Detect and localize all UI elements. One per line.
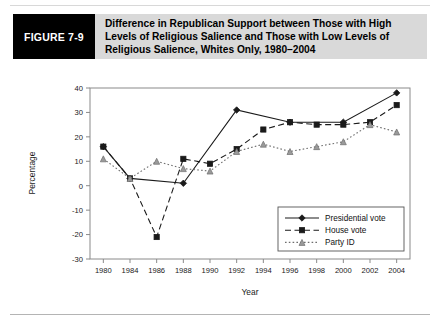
y-tick-label: 40	[75, 84, 83, 93]
figure-title: Difference in Republican Support between…	[95, 14, 427, 59]
y-tick-label: 0	[79, 182, 83, 191]
line-chart: -30-20-10010203040 198019841986198819901…	[13, 63, 427, 301]
legend-label: Presidential vote	[325, 214, 386, 223]
top-divider	[10, 5, 430, 6]
x-tick-label: 1984	[122, 266, 139, 275]
legend-label: Party ID	[325, 238, 355, 247]
y-axis: -30-20-10010203040	[72, 84, 90, 264]
chart-container: -30-20-10010203040 198019841986198819901…	[13, 63, 427, 301]
legend-label: House vote	[325, 226, 367, 235]
y-tick-label: -20	[72, 230, 83, 239]
x-tick-label: 1980	[95, 266, 112, 275]
y-tick-label: 30	[75, 108, 83, 117]
data-point-square	[154, 234, 159, 239]
data-point-square	[181, 156, 186, 161]
x-tick-label: 1986	[148, 266, 165, 275]
data-point-square	[299, 228, 304, 233]
x-tick-label: 2002	[362, 266, 379, 275]
data-point-square	[394, 103, 399, 108]
x-axis: 1980198419861988199019921994199619982000…	[95, 259, 405, 275]
x-tick-label: 1996	[282, 266, 299, 275]
y-tick-label: 20	[75, 133, 83, 142]
y-tick-label: -30	[72, 255, 83, 264]
data-point-square	[314, 122, 319, 127]
bottom-divider	[10, 314, 430, 315]
data-point-square	[341, 122, 346, 127]
y-axis-title: Percentage	[27, 151, 37, 194]
y-tick-label: -10	[72, 206, 83, 215]
data-point-square	[101, 144, 106, 149]
chart-legend: Presidential voteHouse voteParty ID	[278, 207, 404, 251]
x-axis-title: Year	[242, 287, 259, 297]
y-tick-label: 10	[75, 157, 83, 166]
x-tick-label: 2000	[335, 266, 352, 275]
x-tick-label: 1992	[228, 266, 245, 275]
figure-number-tag: FIGURE 7-9	[13, 14, 95, 59]
x-tick-label: 1998	[308, 266, 325, 275]
x-tick-label: 1988	[175, 266, 192, 275]
data-point-square	[261, 127, 266, 132]
x-tick-label: 2004	[388, 266, 405, 275]
figure-header: FIGURE 7-9 Difference in Republican Supp…	[13, 14, 427, 59]
x-tick-label: 1994	[255, 266, 272, 275]
data-point-square	[207, 161, 212, 166]
data-point-square	[287, 120, 292, 125]
x-tick-label: 1990	[202, 266, 219, 275]
